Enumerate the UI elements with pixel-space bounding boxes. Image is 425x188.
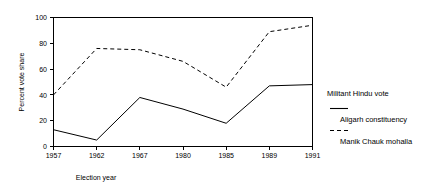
y-tick-label-40: 40 (39, 92, 47, 99)
legend-label-aligarh-constituency: Aligarh constituency (340, 115, 407, 124)
x-tick-label-1957: 1957 (46, 152, 62, 159)
line-chart-figure: 100 80 60 40 20 0 1957 1962 1967 1980 19… (0, 0, 425, 188)
y-tick-label-80: 80 (39, 40, 47, 47)
y-tick-label-60: 60 (39, 66, 47, 73)
y-tick-label-20: 20 (39, 117, 47, 124)
x-tick-label-1989: 1989 (262, 152, 278, 159)
x-tick-label-1967: 1967 (132, 152, 148, 159)
x-tick-label-1991: 1991 (305, 152, 321, 159)
x-axis-title: Election year (76, 174, 117, 182)
legend-label-manik-chauk-mohalla: Manik Chauk mohalla (340, 137, 413, 146)
x-tick-label-1985: 1985 (218, 152, 234, 159)
x-tick-label-1962: 1962 (89, 152, 105, 159)
legend-title: Militant Hindu vote (327, 89, 389, 98)
y-tick-label-100: 100 (35, 14, 47, 21)
x-tick-label-1980: 1980 (175, 152, 191, 159)
y-tick-label-0: 0 (43, 143, 47, 150)
y-axis-title: Percent vote share (18, 53, 25, 112)
